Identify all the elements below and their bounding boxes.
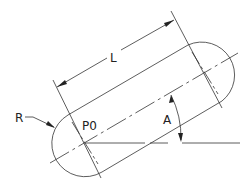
slot-outline: [52, 42, 235, 177]
drawing-canvas: L R P0 A: [0, 0, 250, 188]
extension-lines: [53, 11, 222, 178]
length-label: L: [110, 51, 117, 65]
origin-label: P0: [82, 119, 97, 133]
radius-label: R: [15, 111, 23, 125]
arrowhead-angle-bottom: [178, 133, 183, 142]
arrowhead-radius: [46, 121, 55, 128]
arrowhead-l-right: [164, 20, 174, 27]
center-marks: [72, 52, 218, 164]
arrowhead-l-left: [57, 80, 67, 87]
angle-label: A: [163, 113, 172, 127]
